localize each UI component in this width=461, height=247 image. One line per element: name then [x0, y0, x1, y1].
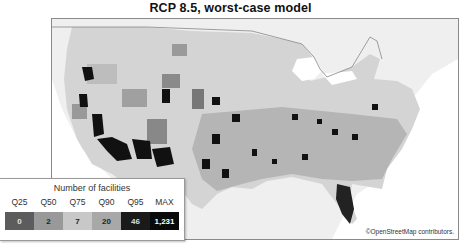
legend-swatch-q95: 46: [121, 212, 150, 230]
legend-label: Q95: [121, 197, 150, 207]
legend-label: Q90: [92, 197, 121, 207]
legend-label: Q75: [63, 197, 92, 207]
map-title: RCP 8.5, worst-case model: [0, 1, 461, 15]
legend-label: Q25: [5, 197, 34, 207]
legend-swatch-q90: 20: [92, 212, 121, 230]
legend-swatch-q50: 2: [34, 212, 63, 230]
legend-swatch-q25: 0: [5, 212, 34, 230]
legend-title: Number of facilities: [0, 183, 184, 193]
legend-quantile-labels: Q25 Q50 Q75 Q90 Q95 MAX: [5, 197, 179, 207]
map-attribution[interactable]: ©OpenStreetMap contributors.: [366, 228, 454, 235]
legend-swatches: 0 2 7 20 46 1,231: [5, 212, 179, 230]
legend-label: Q50: [34, 197, 63, 207]
legend-swatch-max: 1,231: [150, 212, 179, 230]
legend: Number of facilities Q25 Q50 Q75 Q90 Q95…: [0, 178, 185, 241]
legend-swatch-q75: 7: [63, 212, 92, 230]
legend-label: MAX: [150, 197, 179, 207]
